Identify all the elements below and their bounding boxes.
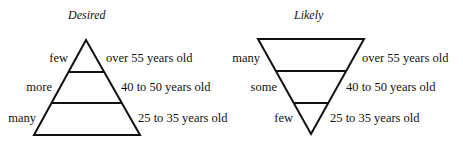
desired-age-middle: 40 to 50 years old (121, 80, 211, 94)
desired-age-top: over 55 years old (106, 51, 192, 65)
likely-age-bottom: 25 to 35 years old (330, 111, 420, 125)
desired-title: Desired (68, 8, 106, 22)
likely-quantity-top: many (232, 51, 260, 65)
desired-quantity-middle: more (26, 80, 52, 94)
desired-age-bottom: 25 to 35 years old (138, 111, 228, 125)
likely-title: Likely (294, 8, 323, 22)
likely-age-top: over 55 years old (362, 51, 448, 65)
likely-quantity-middle: some (251, 80, 277, 94)
desired-quantity-top: few (49, 51, 68, 65)
likely-age-middle: 40 to 50 years old (346, 80, 436, 94)
desired-quantity-bottom: many (8, 111, 36, 125)
likely-quantity-bottom: few (274, 111, 293, 125)
